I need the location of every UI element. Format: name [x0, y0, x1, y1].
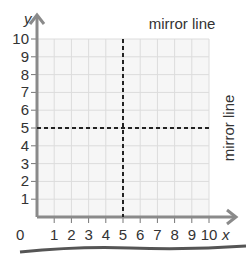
x-tick-label: 2	[67, 226, 75, 243]
x-tick-label: 3	[84, 226, 92, 243]
y-tick-label: 3	[21, 155, 29, 172]
x-tick-label: 5	[119, 226, 127, 243]
y-tick-label: 8	[21, 66, 29, 83]
y-tick-label: 9	[21, 48, 29, 65]
x-tick-labels: 12345678910	[50, 226, 217, 243]
page-edge	[20, 246, 246, 252]
x-tick-label: 8	[170, 226, 178, 243]
x-axis-label: x	[221, 226, 230, 243]
x-tick-label: 6	[136, 226, 144, 243]
x-tick-label: 10	[201, 226, 218, 243]
y-tick-label: 2	[21, 172, 29, 189]
y-tick-label: 10	[12, 30, 29, 47]
coordinate-grid: 12345678910 12345678910 y x 0 mirror lin…	[0, 0, 246, 257]
y-tick-label: 1	[21, 190, 29, 207]
y-tick-label: 5	[21, 119, 29, 136]
y-tick-label: 4	[21, 137, 29, 154]
vertical-mirror-line-label: mirror line	[149, 15, 216, 32]
x-tick-label: 7	[153, 226, 161, 243]
x-tick-label: 1	[50, 226, 58, 243]
y-tick-label: 6	[21, 101, 29, 118]
horizontal-mirror-line-label: mirror line	[220, 95, 237, 162]
y-tick-labels: 12345678910	[12, 30, 29, 207]
y-tick-label: 7	[21, 83, 29, 100]
origin-label: 0	[16, 226, 24, 243]
x-tick-label: 9	[188, 226, 196, 243]
x-tick-label: 4	[102, 226, 110, 243]
